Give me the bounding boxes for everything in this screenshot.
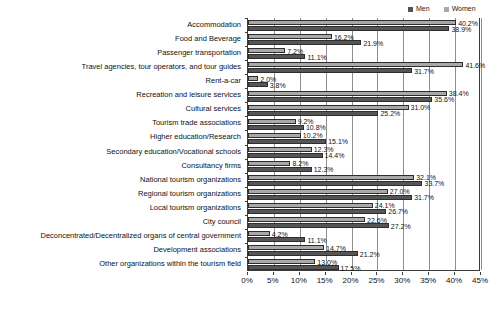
x-tickmark	[428, 272, 429, 275]
y-tickmark	[245, 116, 248, 117]
bar-value-women: 27.0%	[390, 188, 410, 195]
bar-fill-men	[248, 139, 326, 144]
bar-row: 32.1%33.7%	[248, 173, 479, 187]
legend-label-men: Men	[416, 5, 430, 13]
category-label: Cultural services	[186, 105, 241, 113]
bar-women: 16.2%	[248, 34, 332, 39]
bar-value-women: 22.6%	[367, 216, 387, 223]
bar-rows: 40.2%38.9%16.2%21.9%7.2%11.1%41.6%31.7%2…	[248, 18, 479, 270]
bar-row: 7.2%11.1%	[248, 46, 479, 60]
bar-women: 13.0%	[248, 259, 315, 264]
y-tickmark	[245, 32, 248, 33]
bar-women: 32.1%	[248, 175, 414, 180]
y-tickmark	[245, 187, 248, 188]
bar-row: 16.2%21.9%	[248, 32, 479, 46]
bar-fill-women	[248, 259, 315, 264]
bar-men: 14.4%	[248, 153, 323, 158]
bar-men: 11.1%	[248, 54, 305, 59]
bar-row: 9.2%10.8%	[248, 116, 479, 130]
category-label: Regional tourism organizations	[138, 190, 241, 198]
bar-women: 10.2%	[248, 133, 301, 138]
bar-row: 41.6%31.7%	[248, 60, 479, 74]
bar-fill-men	[248, 26, 449, 31]
y-tickmark	[245, 257, 248, 258]
bar-chart: Men Women AccommodationFood and Beverage…	[0, 0, 498, 315]
category-label: Passenger transportation	[157, 49, 241, 57]
bar-row: 13.0%17.5%	[248, 257, 479, 271]
bar-women: 27.0%	[248, 189, 388, 194]
y-tickmark	[245, 102, 248, 103]
y-tickmark	[245, 173, 248, 174]
legend-entry-men: Men	[408, 5, 430, 13]
bar-fill-women	[248, 161, 290, 166]
bar-value-women: 13.0%	[317, 258, 337, 265]
plot-area: 40.2%38.9%16.2%21.9%7.2%11.1%41.6%31.7%2…	[247, 18, 480, 271]
category-label: Recreation and leisure services	[136, 91, 241, 99]
bar-row: 22.6%27.2%	[248, 215, 479, 229]
bar-men: 31.7%	[248, 195, 412, 200]
bar-fill-men	[248, 97, 432, 102]
x-tickmark	[325, 272, 326, 275]
bar-women: 40.2%	[248, 20, 456, 25]
x-tickmark	[376, 272, 377, 275]
bar-row: 4.2%11.1%	[248, 229, 479, 243]
bar-women: 22.6%	[248, 217, 365, 222]
bar-fill-men	[248, 167, 312, 172]
legend-entry-women: Women	[444, 5, 476, 13]
category-label: Tourism trade associations	[152, 119, 241, 127]
bar-women: 4.2%	[248, 231, 270, 236]
bar-row: 8.2%12.3%	[248, 159, 479, 173]
bar-value-men: 17.5%	[341, 264, 361, 271]
bar-fill-women	[248, 245, 324, 250]
value-axis: 0%5%10%15%20%25%30%35%40%45%	[247, 272, 480, 290]
bar-fill-men	[248, 223, 389, 228]
bar-row: 2.0%3.8%	[248, 74, 479, 88]
bar-fill-men	[248, 54, 305, 59]
category-label: Development associations	[153, 246, 241, 254]
category-label: Rent-a-car	[206, 77, 241, 85]
category-axis-labels: AccommodationFood and BeveragePassenger …	[0, 18, 244, 271]
x-tickmark	[247, 272, 248, 275]
bar-fill-men	[248, 265, 339, 270]
y-tickmark	[245, 74, 248, 75]
bar-fill-men	[248, 251, 358, 256]
x-tick-label: 35%	[420, 276, 436, 285]
bar-men: 31.7%	[248, 68, 412, 73]
bar-fill-men	[248, 40, 361, 45]
bar-women: 7.2%	[248, 48, 285, 53]
bar-men: 11.1%	[248, 237, 305, 242]
bar-men: 27.2%	[248, 223, 389, 228]
bar-men: 33.7%	[248, 181, 422, 186]
bar-fill-women	[248, 217, 365, 222]
category-label: Accommodation	[187, 21, 241, 29]
bar-value-women: 14.7%	[326, 244, 346, 251]
y-tickmark	[245, 88, 248, 89]
bar-men: 38.9%	[248, 26, 449, 31]
bar-fill-women	[248, 203, 373, 208]
y-tickmark	[245, 145, 248, 146]
bar-fill-men	[248, 68, 412, 73]
bar-fill-women	[248, 133, 301, 138]
bar-row: 12.3%14.4%	[248, 145, 479, 159]
bar-fill-women	[248, 34, 332, 39]
x-tick-label: 25%	[368, 276, 384, 285]
bar-fill-women	[248, 175, 414, 180]
bar-fill-women	[248, 76, 258, 81]
y-tickmark	[245, 60, 248, 61]
x-tickmark	[351, 272, 352, 275]
category-label: City council	[203, 218, 241, 226]
bar-men: 26.7%	[248, 209, 386, 214]
bar-men: 25.2%	[248, 111, 378, 116]
y-tickmark	[245, 243, 248, 244]
bar-fill-women	[248, 189, 388, 194]
x-tick-label: 0%	[241, 276, 253, 285]
bar-value-women: 7.2%	[287, 47, 303, 54]
bar-women: 8.2%	[248, 161, 290, 166]
bar-fill-men	[248, 209, 386, 214]
x-tick-label: 15%	[317, 276, 333, 285]
x-tick-label: 20%	[343, 276, 359, 285]
legend-label-women: Women	[452, 5, 476, 13]
bar-value-women: 31.0%	[411, 104, 431, 111]
category-label: Higher education/Research	[150, 133, 241, 141]
y-tickmark	[245, 18, 248, 19]
